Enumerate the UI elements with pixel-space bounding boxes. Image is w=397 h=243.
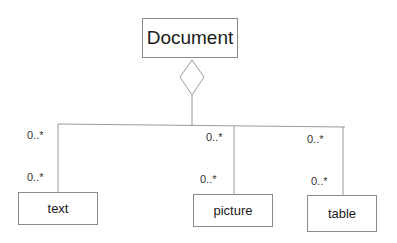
multiplicity-text-top: 0..* — [27, 129, 44, 141]
aggregation-diamond-icon — [180, 60, 204, 95]
class-document-label: Document — [147, 27, 234, 49]
class-picture: picture — [193, 194, 273, 227]
multiplicity-table-bottom: 0..* — [311, 175, 328, 187]
multiplicity-text-bottom: 0..* — [27, 171, 44, 183]
class-picture-label: picture — [213, 203, 252, 218]
class-text-label: text — [48, 201, 69, 216]
multiplicity-picture-bottom: 0..* — [200, 173, 217, 185]
multiplicity-table-top: 0..* — [307, 133, 324, 145]
class-text: text — [18, 192, 98, 225]
class-table-label: table — [328, 206, 356, 221]
multiplicity-picture-top: 0..* — [206, 131, 223, 143]
class-document: Document — [142, 18, 238, 58]
class-table: table — [307, 195, 377, 232]
